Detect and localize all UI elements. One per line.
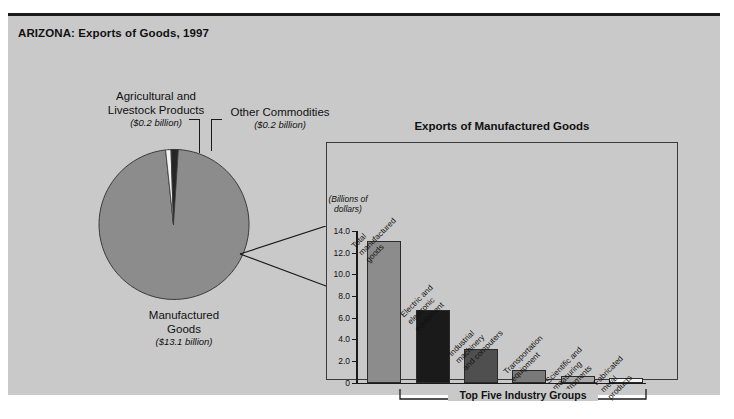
y-tick-4.0 <box>352 339 356 340</box>
pie-callout-other-line1: Other Commodities <box>210 105 350 119</box>
pie-callout-agricultural-line1: Agricultural and <box>76 89 236 103</box>
y-tick-label-10.0: 10.0 <box>333 269 350 279</box>
bar-chart-plot-area: 02.04.06.08.010.012.014.0 Total manufact… <box>356 221 646 384</box>
callout-connector <box>238 226 333 301</box>
leader-line-other-horizontal <box>211 119 222 120</box>
y-tick-2.0 <box>352 361 356 362</box>
y-tick-10.0 <box>352 274 356 275</box>
bracket-label: Top Five Industry Groups <box>448 389 598 401</box>
y-tick-label-0: 0 <box>345 378 350 388</box>
pie-callout-manufactured-goods: Manufactured Goods ($13.1 billion) <box>104 308 264 348</box>
y-tick-0 <box>352 383 356 384</box>
y-tick-label-4.0: 4.0 <box>338 334 350 344</box>
y-axis <box>356 231 358 384</box>
figure-panel: ARIZONA: Exports of Goods, 1997 Agricult… <box>8 13 720 395</box>
y-tick-label-8.0: 8.0 <box>338 291 350 301</box>
pie-callout-manufactured-line2: Goods <box>104 322 264 336</box>
y-tick-label-2.0: 2.0 <box>338 356 350 366</box>
y-tick-12.0 <box>352 253 356 254</box>
leader-line-agricultural-horizontal <box>189 119 200 120</box>
pie-callout-manufactured-value: ($13.1 billion) <box>104 336 264 348</box>
y-axis-units-label: (Billions of dollars) <box>320 194 376 214</box>
y-tick-14.0 <box>352 231 356 232</box>
pie-callout-manufactured-line1: Manufactured <box>104 308 264 322</box>
y-tick-label-12.0: 12.0 <box>333 248 350 258</box>
y-tick-6.0 <box>352 318 356 319</box>
pie-chart-section: Agricultural and Livestock Products ($0.… <box>8 16 338 398</box>
y-tick-label-6.0: 6.0 <box>338 313 350 323</box>
y-axis-units-line1: (Billions of <box>320 194 376 204</box>
y-axis-units-line2: dollars) <box>320 204 376 214</box>
y-tick-8.0 <box>352 296 356 297</box>
pie-chart <box>96 147 251 302</box>
bar-chart-title: Exports of Manufactured Goods <box>326 120 678 132</box>
y-tick-label-14.0: 14.0 <box>333 226 350 236</box>
